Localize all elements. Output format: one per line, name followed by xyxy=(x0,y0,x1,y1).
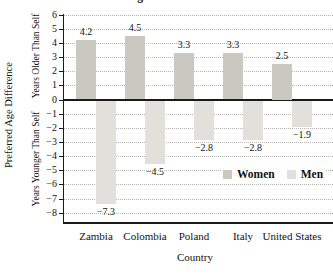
y-axis-spine xyxy=(63,14,64,222)
bar-men-colombia xyxy=(145,101,165,165)
chart-title-clipped: Preferred Age Difference in a Mate xyxy=(0,0,333,3)
y-tick-label: −8 xyxy=(37,208,57,218)
gridline xyxy=(63,71,333,72)
y-tick-label: 6 xyxy=(37,10,57,20)
bar-men-united-states xyxy=(292,101,312,128)
value-label: −2.8 xyxy=(233,142,273,153)
y-tick-label: −3 xyxy=(37,137,57,147)
value-label: −4.5 xyxy=(135,166,175,177)
y-tick-label: −7 xyxy=(37,194,57,204)
legend-women-swatch xyxy=(223,170,232,179)
gridline xyxy=(63,15,333,16)
value-label: 4.5 xyxy=(115,22,155,33)
chart-title: Preferred Age Difference in a Mate xyxy=(0,0,333,2)
y-tick-label: −6 xyxy=(37,179,57,189)
legend-women-label: Women xyxy=(237,168,275,180)
y-tick-label: 1 xyxy=(37,80,57,90)
y-axis-title: Preferred Age Difference xyxy=(3,15,17,215)
bar-women-italy xyxy=(223,53,243,100)
gridline xyxy=(63,85,333,86)
legend: Women Men xyxy=(221,167,325,181)
value-label: 3.3 xyxy=(164,39,204,50)
x-axis-spine xyxy=(63,222,333,224)
y-tick-label: −1 xyxy=(37,109,57,119)
chart-figure: Preferred Age Difference in a Mate Prefe… xyxy=(0,0,333,274)
bar-women-united-states xyxy=(272,64,292,99)
x-axis-title: Country xyxy=(165,251,225,263)
value-label: 4.2 xyxy=(66,26,106,37)
value-label: −2.8 xyxy=(184,142,224,153)
y-tick-label: 5 xyxy=(37,24,57,34)
bar-women-zambia xyxy=(76,40,96,99)
y-tick-label: −4 xyxy=(37,151,57,161)
legend-men-label: Men xyxy=(301,168,323,180)
y-tick-label: 4 xyxy=(37,38,57,48)
y-tick-label: −2 xyxy=(37,123,57,133)
bar-men-poland xyxy=(194,101,214,141)
y-tick-label: 0 xyxy=(37,95,57,105)
value-label: −1.9 xyxy=(282,129,322,140)
value-label: 2.5 xyxy=(262,50,302,61)
legend-men-swatch xyxy=(287,170,296,179)
bar-women-poland xyxy=(174,53,194,100)
y-tick-label: 2 xyxy=(37,66,57,76)
bar-women-colombia xyxy=(125,36,145,100)
value-label: −7.3 xyxy=(86,206,126,217)
value-label: 3.3 xyxy=(213,39,253,50)
y-tick-label: 3 xyxy=(37,52,57,62)
bar-men-italy xyxy=(243,101,263,141)
bar-men-zambia xyxy=(96,101,116,204)
x-category-label: United States xyxy=(262,230,322,243)
y-tick-label: −5 xyxy=(37,165,57,175)
